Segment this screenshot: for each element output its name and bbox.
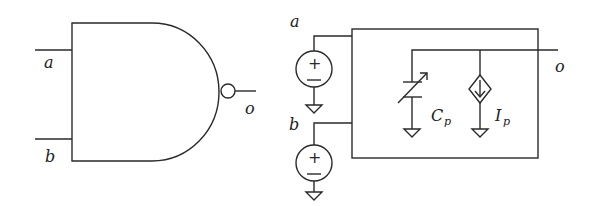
source-b-wire — [314, 123, 352, 145]
source-b-plus: + — [308, 148, 321, 167]
input-a-label: a — [44, 53, 54, 72]
source-a-label: a — [290, 12, 300, 31]
source-a-plus: + — [308, 54, 321, 73]
source-a-wire — [314, 36, 352, 51]
nand-gate: a b o — [35, 23, 256, 166]
ground-icon — [306, 192, 322, 200]
source-b-label: b — [289, 115, 299, 134]
output-o-label: o — [245, 99, 255, 118]
capacitor-label: C — [431, 106, 443, 125]
nand-gate-body — [72, 23, 219, 161]
inversion-bubble — [221, 84, 235, 98]
current-source-label: I — [494, 106, 502, 125]
input-b-label: b — [45, 147, 55, 166]
capacitor-label-sub: p — [444, 115, 451, 128]
output-o-label: o — [555, 57, 565, 76]
ground-icon — [472, 129, 488, 137]
output-node-wire — [412, 50, 558, 82]
diagram-canvas: a b o a + b + o C p — [0, 0, 593, 206]
equivalent-circuit: a + b + o C p I p — [289, 12, 565, 200]
ground-icon — [306, 105, 322, 113]
current-source-label-sub: p — [503, 115, 510, 128]
ground-icon — [404, 129, 420, 137]
gate-model-box — [352, 29, 538, 158]
